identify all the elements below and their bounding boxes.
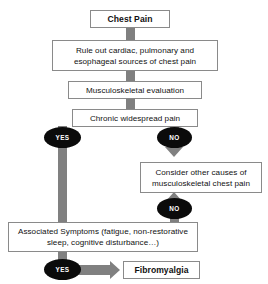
node-musculoskeletal-evaluation[interactable]: Musculoskeletal evaluation <box>68 81 202 99</box>
arrowhead-right-to-fibromyalgia <box>110 261 120 279</box>
node-rule-out-cardiac-pulmonary-esophageal[interactable]: Rule out cardiac, pulmonary and esophage… <box>52 40 218 71</box>
flowchart-canvas: Chest Pain Rule out cardiac, pulmonary a… <box>0 0 268 284</box>
node-fibromyalgia[interactable]: Fibromyalgia <box>123 261 200 279</box>
decision-no-chronic-widespread-pain[interactable]: NO <box>157 127 192 148</box>
node-chest-pain[interactable]: Chest Pain <box>90 10 170 28</box>
arrowhead-down-to-consider-other-causes <box>165 147 183 157</box>
decision-no-associated-symptoms[interactable]: NO <box>157 198 192 219</box>
decision-yes-chronic-widespread-pain[interactable]: YES <box>44 127 81 148</box>
node-consider-other-causes[interactable]: Consider other causes of musculoskeletal… <box>140 162 262 193</box>
node-chronic-widespread-pain[interactable]: Chronic widespread pain <box>72 109 198 127</box>
node-associated-symptoms[interactable]: Associated Symptoms (fatigue, non-restor… <box>8 222 198 252</box>
decision-yes-associated-symptoms[interactable]: YES <box>44 259 81 280</box>
